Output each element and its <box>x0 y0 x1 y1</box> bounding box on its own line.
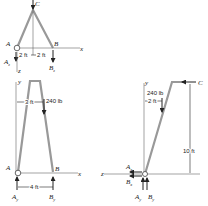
front-frame <box>18 81 53 172</box>
label-by: By <box>49 193 55 202</box>
dim-10ft: 10 ft <box>183 148 195 154</box>
label-b: B <box>55 165 60 173</box>
label-ay: Ay <box>11 193 18 202</box>
label-y: y <box>17 78 22 86</box>
load-240-label: 240 lb <box>147 90 164 96</box>
label-by: By <box>148 193 154 202</box>
free-body-diagram: C x A B Az z Bz 2 ft 2 ft y x A B <box>0 0 208 206</box>
label-b: B <box>54 40 59 48</box>
label-az: Az <box>3 58 10 67</box>
label-a: A <box>5 40 11 48</box>
label-x: x <box>79 45 84 53</box>
label-a: A <box>5 164 11 172</box>
top-view: C x A B Az z Bz 2 ft 2 ft <box>3 0 84 75</box>
dim-2ft-left: 2 ft <box>19 52 28 58</box>
label-c: C <box>198 79 203 87</box>
label-x: x <box>77 170 82 178</box>
pin-a <box>14 45 20 51</box>
label-y: y <box>144 79 149 87</box>
label-ax: Ax <box>125 163 132 172</box>
dim-2ft-right: 2 ft <box>37 52 46 58</box>
load-240-label: 240 lb <box>46 98 63 104</box>
pin-ab <box>143 172 148 177</box>
dim-2ft: 2 ft <box>148 98 157 104</box>
label-bx: Bx <box>126 178 132 187</box>
label-ay: Ay <box>134 193 141 202</box>
label-c: C <box>35 0 40 8</box>
front-view: y x A B 3 ft 240 lb Ay By 4 ft <box>5 78 82 202</box>
label-z: z <box>17 67 21 75</box>
dim-4ft: 4 ft <box>30 184 39 190</box>
pin-a <box>15 170 21 176</box>
label-z: z <box>100 170 104 178</box>
label-bz: Bz <box>49 64 55 73</box>
side-view: y C 240 lb 2 ft 10 ft z Ax Bx Ay By <box>100 79 203 202</box>
top-frame <box>17 10 53 48</box>
dim-3ft: 3 ft <box>25 99 34 105</box>
